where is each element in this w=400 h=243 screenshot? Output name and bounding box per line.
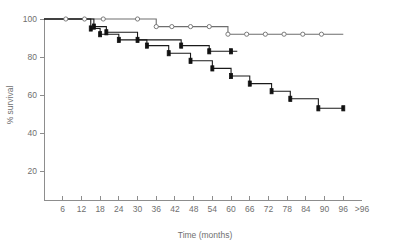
- x-tick-label: 66: [245, 204, 255, 214]
- plot-axes: [44, 19, 362, 200]
- censor-marker-filled: [145, 43, 148, 48]
- censor-marker-filled: [92, 24, 95, 29]
- censor-marker-filled: [342, 106, 345, 111]
- censor-marker-open: [282, 32, 286, 36]
- censor-marker-open: [301, 32, 305, 36]
- x-tick-label: 60: [226, 204, 236, 214]
- x-tick-label: >96: [355, 204, 370, 214]
- censor-marker-filled: [230, 49, 233, 54]
- x-tick-label: 78: [282, 204, 292, 214]
- censor-marker-filled: [99, 32, 102, 37]
- survival-curve: [44, 19, 237, 51]
- x-tick-label: 30: [133, 204, 143, 214]
- censor-marker-filled: [211, 66, 214, 71]
- censor-marker-open: [135, 17, 139, 21]
- censor-marker-open: [263, 32, 267, 36]
- x-tick-label: 54: [208, 204, 218, 214]
- censor-marker-open: [101, 17, 105, 21]
- censor-marker-open: [245, 32, 249, 36]
- censor-marker-filled: [270, 89, 273, 94]
- x-tick-label: 72: [264, 204, 274, 214]
- censor-marker-filled: [230, 73, 233, 78]
- censor-marker-filled: [136, 37, 139, 42]
- y-axis-ticks: 20406080100: [23, 14, 44, 176]
- axis-lines: [44, 19, 362, 200]
- censor-marker-filled: [89, 26, 92, 31]
- censor-marker-filled: [117, 37, 120, 42]
- x-tick-label: 96: [339, 204, 349, 214]
- censor-marker-open: [82, 17, 86, 21]
- censor-marker-open: [154, 25, 158, 29]
- x-tick-label: 42: [170, 204, 180, 214]
- x-tick-label: 36: [152, 204, 162, 214]
- censor-marker-filled: [105, 30, 108, 35]
- x-tick-label: 84: [301, 204, 311, 214]
- x-tick-label: 48: [189, 204, 199, 214]
- x-tick-label: 12: [77, 204, 87, 214]
- censor-marker-filled: [289, 96, 292, 101]
- survival-chart: 20406080100 6121824303642485460667278849…: [0, 0, 400, 243]
- censor-marker-filled: [208, 49, 211, 54]
- censor-marker-filled: [317, 106, 320, 111]
- censor-marker-open: [226, 32, 230, 36]
- censor-marker-open: [319, 32, 323, 36]
- km-plot-svg: 20406080100 6121824303642485460667278849…: [0, 0, 400, 243]
- curve-markers: [64, 17, 345, 111]
- x-tick-label: 24: [114, 204, 124, 214]
- y-tick-label: 100: [23, 14, 37, 24]
- y-tick-label: 60: [28, 90, 38, 100]
- censor-marker-open: [64, 17, 68, 21]
- censor-marker-open: [188, 25, 192, 29]
- x-tick-label: 90: [320, 204, 330, 214]
- censor-marker-filled: [248, 81, 251, 86]
- x-tick-label: 6: [60, 204, 65, 214]
- y-axis-title: % survival: [5, 86, 15, 125]
- censor-marker-filled: [180, 43, 183, 48]
- censor-marker-open: [170, 25, 174, 29]
- censor-marker-open: [207, 25, 211, 29]
- censor-marker-filled: [167, 51, 170, 56]
- survival-curve: [44, 19, 343, 108]
- x-axis-title: Time (months): [178, 230, 233, 240]
- censor-marker-filled: [189, 58, 192, 63]
- x-tick-label: 18: [95, 204, 105, 214]
- survival-curves: [44, 19, 343, 108]
- x-axis-ticks: 6121824303642485460667278849096>96: [60, 196, 369, 214]
- y-tick-label: 20: [28, 166, 38, 176]
- y-tick-label: 40: [28, 128, 38, 138]
- y-tick-label: 80: [28, 52, 38, 62]
